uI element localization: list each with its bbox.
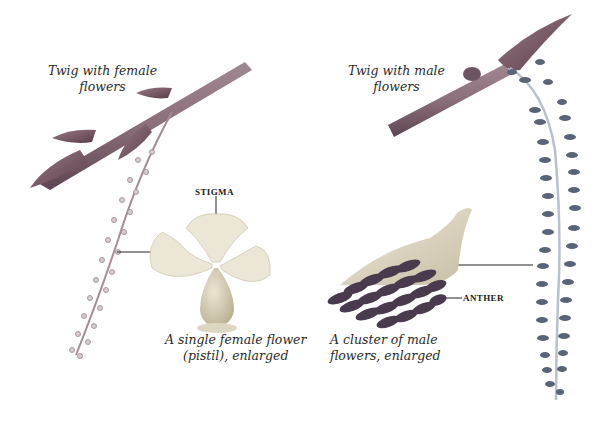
caption-line: (pistil), enlarged [165, 348, 306, 364]
caption-line: flowers [48, 79, 157, 95]
caption-line: flowers [348, 79, 445, 95]
caption-line: Twig with male [348, 63, 445, 79]
female-flower-caption: A single female flower (pistil), enlarge… [165, 332, 306, 364]
male-cluster-caption: A cluster of male flowers, enlarged [330, 332, 441, 364]
female-twig-caption: Twig with female flowers [48, 63, 157, 95]
pistil-illustration [150, 214, 270, 333]
stigma-lobe-top [186, 214, 248, 262]
cluster-bract [340, 208, 472, 285]
male-twig-caption: Twig with male flowers [348, 63, 445, 95]
lateral-bud [52, 130, 96, 143]
twig-node [463, 67, 481, 81]
stigma-label: STIGMA [195, 187, 234, 197]
caption-line: Twig with female [48, 63, 157, 79]
ovary [200, 268, 234, 327]
caption-line: flowers, enlarged [330, 348, 441, 364]
caption-line: A single female flower [165, 332, 306, 348]
female-catkin-flowers [70, 150, 155, 359]
caption-line: A cluster of male [330, 332, 441, 348]
male-cluster-illustration [326, 208, 472, 331]
terminal-bud [498, 14, 572, 70]
anther-label: ANTHER [463, 293, 504, 303]
stigma-lobe-right [220, 246, 270, 281]
